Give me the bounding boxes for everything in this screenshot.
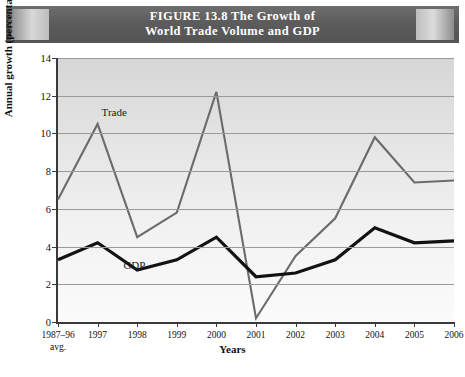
x-tick-label: 1997	[88, 330, 107, 340]
y-tick-mark	[52, 284, 57, 285]
title-ornament-left-icon	[11, 9, 49, 40]
gridline	[58, 171, 454, 172]
y-tick-label: 14	[41, 53, 52, 64]
y-tick-mark	[52, 171, 57, 172]
gridline	[58, 96, 454, 97]
gridline	[58, 133, 454, 134]
y-tick-label: 0	[46, 317, 51, 328]
y-axis-title: Annual growth (percentages)	[2, 0, 14, 139]
y-tick-label: 6	[46, 203, 51, 214]
x-tick-label: 2001	[247, 330, 266, 340]
y-tick-mark	[52, 209, 57, 210]
x-tick-label: 2002	[286, 330, 305, 340]
x-tick-label: 2004	[365, 330, 384, 340]
gridline	[58, 58, 454, 59]
x-tick-mark	[177, 322, 178, 327]
plot-outer: Annual growth (percentages) Years 024681…	[6, 43, 459, 371]
x-tick-mark	[98, 322, 99, 327]
x-tick-mark	[375, 322, 376, 327]
series-label-trade: Trade	[102, 106, 127, 118]
x-tick-mark	[256, 322, 257, 327]
title-ornament-right-icon	[416, 9, 454, 40]
x-tick-label: 2005	[405, 330, 424, 340]
y-tick-mark	[52, 133, 57, 134]
figure-title-bar: FIGURE 13.8 The Growth of World Trade Vo…	[6, 6, 459, 43]
y-tick-label: 12	[41, 90, 52, 101]
gridline	[58, 247, 454, 248]
x-tick-label: 2003	[326, 330, 345, 340]
y-tick-label: 8	[46, 166, 51, 177]
y-tick-mark	[52, 322, 57, 323]
x-tick-mark	[216, 322, 217, 327]
x-tick-label: 2000	[207, 330, 226, 340]
figure-title-line-1: FIGURE 13.8 The Growth of	[150, 9, 315, 23]
gridline	[58, 284, 454, 285]
figure-title-line-2: World Trade Volume and GDP	[56, 24, 409, 39]
y-tick-label: 4	[46, 241, 51, 252]
x-tick-label: 2006	[445, 330, 464, 340]
y-tick-label: 2	[46, 279, 51, 290]
x-tick-mark	[335, 322, 336, 327]
plot-area: 024681012141987–96avg.199719981999200020…	[56, 58, 454, 324]
y-tick-mark	[52, 247, 57, 248]
y-tick-mark	[52, 58, 57, 59]
x-tick-label: 1998	[128, 330, 147, 340]
y-tick-mark	[52, 96, 57, 97]
series-label-gdp: GDP	[123, 259, 145, 271]
series-lines	[58, 58, 454, 322]
y-tick-label: 10	[41, 128, 52, 139]
x-tick-label: 1999	[167, 330, 186, 340]
x-tick-mark	[414, 322, 415, 327]
figure-container: FIGURE 13.8 The Growth of World Trade Vo…	[0, 0, 465, 377]
series-line-gdp	[58, 228, 454, 277]
gridline	[58, 209, 454, 210]
x-tick-label: 1987–96avg.	[41, 330, 74, 352]
x-tick-mark	[137, 322, 138, 327]
x-tick-mark	[58, 322, 59, 327]
x-tick-sublabel: avg.	[41, 342, 74, 352]
figure-title: FIGURE 13.8 The Growth of World Trade Vo…	[56, 9, 409, 39]
x-tick-mark	[454, 322, 455, 327]
x-tick-mark	[296, 322, 297, 327]
